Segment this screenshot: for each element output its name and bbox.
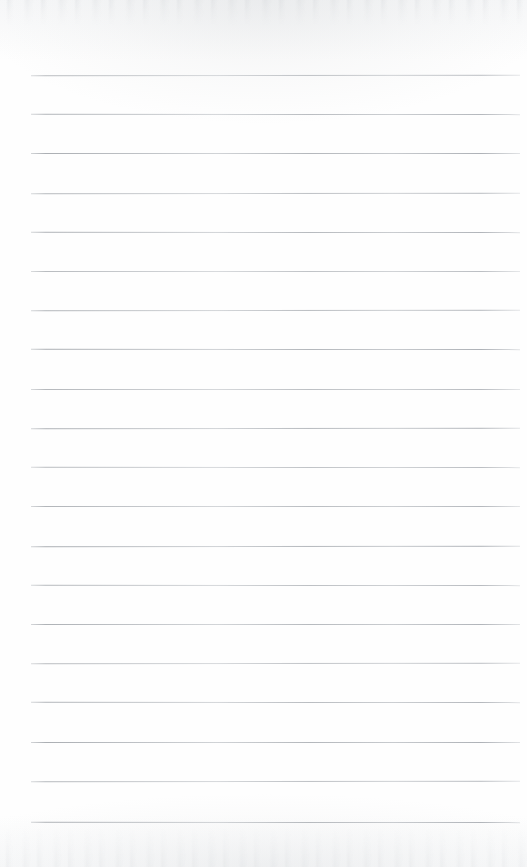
rule-line xyxy=(31,663,520,664)
rule-line xyxy=(31,781,520,782)
rule-line xyxy=(31,310,520,311)
rule-line xyxy=(31,585,520,586)
rule-line xyxy=(31,506,520,507)
scanned-page xyxy=(0,0,527,867)
rule-line xyxy=(31,75,520,76)
rule-line xyxy=(31,822,520,823)
rule-line xyxy=(31,271,520,272)
rule-line xyxy=(31,428,520,429)
rule-line xyxy=(31,389,520,390)
rule-line xyxy=(31,702,520,703)
rule-line xyxy=(31,467,520,468)
rule-line xyxy=(31,742,520,743)
rule-line xyxy=(31,114,520,115)
rule-line xyxy=(31,232,520,233)
rule-line xyxy=(31,153,520,154)
rule-line xyxy=(31,624,520,625)
rule-line xyxy=(31,193,520,194)
rule-line xyxy=(31,349,520,350)
ruled-lines-group xyxy=(0,0,527,867)
rule-line xyxy=(31,546,520,547)
